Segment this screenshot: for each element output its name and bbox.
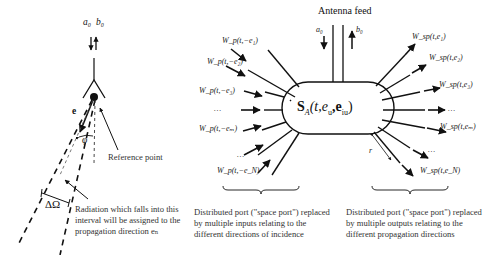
direction-vector-label: e — [72, 106, 76, 116]
radiation-caption: Radiation which falls into this interval… — [75, 204, 180, 237]
caption-line: Radiation which falls into this — [75, 204, 180, 215]
inputs-brace — [223, 186, 299, 194]
input-label: W_p(t,−e₁) — [222, 36, 258, 45]
input-label: W_p(t,−e₃) — [199, 86, 235, 95]
caption-line: different directions of incidence — [194, 229, 330, 240]
caption-line: propagation direction eₙ — [75, 226, 180, 237]
scattering-block-label: SA(t,eu,eiu) — [297, 99, 353, 117]
phi-label: φ — [82, 135, 87, 145]
input-label: … — [237, 150, 244, 159]
antenna-feed-title: Antenna feed — [318, 5, 372, 16]
output-label: W_sp(t,e_N) — [420, 166, 460, 175]
caption-line: by multiple outputs relating to the — [346, 218, 482, 229]
caption-line: Distributed port ("space port") replaced — [346, 207, 482, 218]
caption-line: interval will be assigned to the — [75, 215, 180, 226]
output-label: … — [448, 104, 455, 113]
reference-point-dot — [90, 93, 98, 101]
feed-b0-label: b₀ — [356, 25, 363, 34]
caption-line: by multiple inputs relating to the — [194, 218, 330, 229]
outputs-caption: Distributed port ("space port") replaced… — [346, 207, 482, 240]
output-label: W_sp(t,e₂) — [429, 53, 463, 62]
b0-label: b₀ — [96, 17, 104, 27]
radiation-pointer — [65, 180, 88, 199]
input-label: W_p(t,−e₂) — [207, 57, 243, 66]
feed-a0-label: a₀ — [316, 25, 323, 34]
caption-line: different propagation directions — [346, 229, 482, 240]
input-label: W_p(t,−e_N) — [217, 166, 260, 175]
a0-label: a₀ — [83, 17, 91, 27]
inputs-caption: Distributed port ("space port") replaced… — [194, 207, 330, 240]
input-label: … — [214, 104, 221, 113]
caption-line: Distributed port ("space port") replaced — [194, 207, 330, 218]
outputs-brace — [372, 186, 448, 194]
r-label: r — [369, 146, 372, 155]
reference-pointer — [100, 108, 118, 150]
delta-omega-label: ΔΩ — [45, 198, 60, 210]
reference-point-label: Reference point — [108, 152, 163, 163]
input-label: W_p(t,−eₘ) — [199, 124, 237, 133]
output-label: … — [428, 145, 435, 154]
output-label: W_sp(t,e₁) — [412, 32, 446, 41]
output-label: W_sp(t,e₃) — [439, 80, 473, 89]
output-label: W_sp(t,eₘ) — [440, 122, 476, 131]
